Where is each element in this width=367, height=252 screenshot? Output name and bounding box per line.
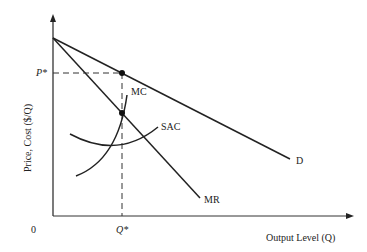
equilibrium-price-point (119, 70, 125, 76)
y-axis-label: Price, Cost ($/Q) (22, 104, 33, 172)
sac-curve (70, 127, 158, 145)
x-axis-label: Output Level (Q) (266, 232, 335, 243)
mc-curve (76, 95, 127, 176)
mr-label: MR (204, 194, 220, 205)
p-star-label: P* (36, 67, 47, 78)
sac-label: SAC (161, 121, 180, 132)
q-star-label: Q* (116, 224, 128, 235)
origin-label: 0 (31, 224, 36, 235)
demand-curve (53, 38, 290, 159)
mc-label: MC (131, 86, 147, 97)
marginal-revenue-curve (53, 38, 200, 198)
demand-label: D (296, 155, 303, 166)
mr-mc-intersection-point (119, 110, 125, 116)
x-axis-arrow-icon (346, 213, 354, 219)
monopoly-diagram (0, 0, 367, 252)
y-axis-arrow-icon (50, 14, 56, 22)
